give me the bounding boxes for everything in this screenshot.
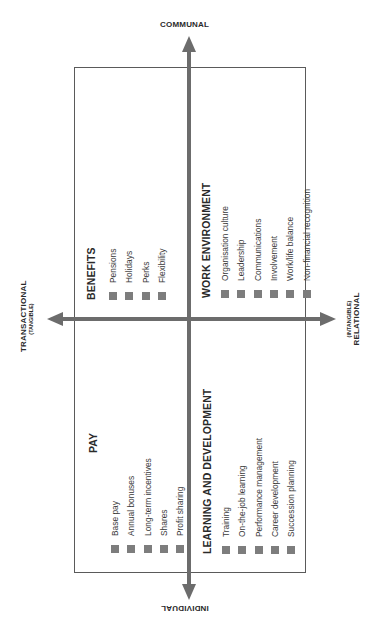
list-item: Annual bonuses <box>123 433 139 553</box>
square-bullet-icon <box>254 290 262 298</box>
quadrant-title: PAY <box>86 433 107 553</box>
list-item: Shares <box>156 433 172 553</box>
square-bullet-icon <box>255 546 263 554</box>
quadrant-title: BENEFITS <box>84 247 105 300</box>
square-bullet-icon <box>142 292 150 300</box>
horizontal-axis <box>58 317 324 321</box>
square-bullet-icon <box>158 292 166 300</box>
square-bullet-icon <box>109 292 117 300</box>
quadrant-item-list: Base pay Annual bonuses Long-term incent… <box>107 433 188 553</box>
axis-label-communal: COMMUNAL <box>160 20 209 29</box>
square-bullet-icon <box>270 290 278 298</box>
square-bullet-icon <box>303 290 311 298</box>
list-item: Perks <box>138 247 154 300</box>
square-bullet-icon <box>111 545 119 553</box>
list-item: Career development <box>267 389 283 554</box>
quadrant-item-list: Training On-the-job learning Performance… <box>218 389 299 554</box>
axis-label-relational: RELATIONAL <box>352 286 361 352</box>
square-bullet-icon <box>286 290 294 298</box>
arrow-right-icon <box>320 312 336 326</box>
square-bullet-icon <box>287 546 295 554</box>
axis-label-transactional-group: TRANSACTIONAL (TANGIBLE) <box>19 286 34 352</box>
square-bullet-icon <box>238 546 246 554</box>
square-bullet-icon <box>160 545 168 553</box>
list-item: Pensions <box>105 247 121 300</box>
list-item: Non-financial recognition <box>298 183 314 298</box>
axis-label-relational-group: (INTANGIBLE) RELATIONAL <box>346 286 361 352</box>
square-bullet-icon <box>144 545 152 553</box>
square-bullet-icon <box>222 546 230 554</box>
square-bullet-icon <box>127 545 135 553</box>
list-item: Leadership <box>233 183 249 298</box>
list-item: Succession planning <box>283 389 299 554</box>
quadrant-item-list: Pensions Holidays Perks Flexibility <box>105 247 170 300</box>
list-item: Performance management <box>251 389 267 554</box>
list-item: Long-term incentives <box>140 433 156 553</box>
axis-label-transactional: TRANSACTIONAL <box>19 286 28 352</box>
quadrant-learning-and-development: LEARNING AND DEVELOPMENT Training On-the… <box>200 389 299 554</box>
quadrant-title: WORK ENVIRONMENT <box>199 183 217 298</box>
square-bullet-icon <box>176 545 184 553</box>
arrow-left-icon <box>47 312 63 326</box>
quadrant-benefits: BENEFITS Pensions Holidays Perks Flexibi… <box>84 247 170 300</box>
square-bullet-icon <box>221 290 229 298</box>
axis-sublabel-tangible: (TANGIBLE) <box>28 286 34 352</box>
arrow-down-icon <box>182 584 196 600</box>
list-item: Organisation culture <box>217 183 233 298</box>
list-item: On-the-job learning <box>234 389 250 554</box>
list-item: Work/life balance <box>282 183 298 298</box>
quadrant-item-list: Organisation culture Leadership Communic… <box>217 183 315 298</box>
arrow-up-icon <box>182 36 196 52</box>
list-item: Flexibility <box>154 247 170 300</box>
list-item: Profit sharing <box>172 433 188 553</box>
list-item: Communications <box>250 183 266 298</box>
square-bullet-icon <box>237 290 245 298</box>
quadrant-pay: PAY Base pay Annual bonuses Long-term in… <box>86 433 188 553</box>
quadrant-title: LEARNING AND DEVELOPMENT <box>200 389 218 554</box>
list-item: Training <box>218 389 234 554</box>
list-item: Involvement <box>266 183 282 298</box>
quadrant-work-environment: WORK ENVIRONMENT Organisation culture Le… <box>199 183 315 298</box>
list-item: Base pay <box>107 433 123 553</box>
list-item: Holidays <box>121 247 137 300</box>
square-bullet-icon <box>125 292 133 300</box>
axis-label-individual: INDIVIDUAL <box>161 604 209 613</box>
square-bullet-icon <box>271 546 279 554</box>
